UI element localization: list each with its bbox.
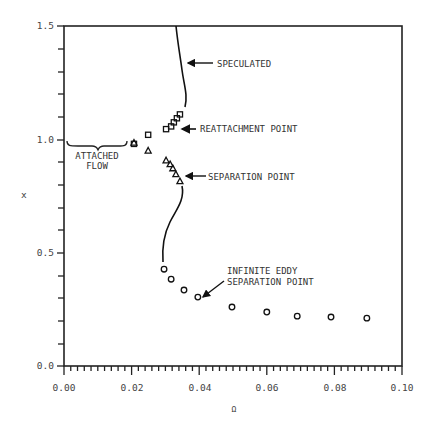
circle-marker xyxy=(364,315,370,321)
x-tick-label: 0.10 xyxy=(391,382,414,393)
triangle-marker xyxy=(145,147,151,153)
triangle-marker xyxy=(177,178,183,184)
circle-marker xyxy=(264,309,270,315)
triangle-marker xyxy=(173,171,179,177)
circle-marker xyxy=(328,314,334,320)
y-axis-label: x xyxy=(21,189,27,200)
circle-marker xyxy=(229,304,235,310)
x-tick-label: 0.08 xyxy=(324,382,347,393)
x-axis-label: Ω xyxy=(232,405,237,414)
separation-curve xyxy=(163,186,183,262)
circle-marker xyxy=(181,287,187,293)
square-marker xyxy=(163,127,168,132)
attached-flow-brace xyxy=(67,141,127,150)
reattachment-label: REATTACHMENT POINT xyxy=(200,124,298,134)
data-markers xyxy=(131,112,370,321)
circle-marker xyxy=(168,276,174,282)
circle-marker xyxy=(294,313,300,319)
separation-label: SEPARATION POINT xyxy=(208,172,295,182)
triangle-marker xyxy=(131,140,137,146)
circle-marker xyxy=(161,266,167,272)
infinite-eddy-arrow xyxy=(203,281,224,297)
infinite-eddy-label-2: SEPARATION POINT xyxy=(227,277,314,287)
y-tick-label: 0.0 xyxy=(37,360,54,371)
y-tick-label: 1.0 xyxy=(37,134,54,145)
attached-label: ATTACHED xyxy=(75,151,118,161)
circle-marker xyxy=(195,294,201,300)
x-tick-label: 0.00 xyxy=(53,382,76,393)
speculated-label: SPECULATED xyxy=(217,59,271,69)
y-axis xyxy=(57,26,64,366)
x-tick-label: 0.04 xyxy=(189,382,212,393)
speculated-curve xyxy=(176,26,186,107)
triangle-marker xyxy=(163,157,169,163)
plot-frame xyxy=(64,26,402,366)
triangle-marker xyxy=(170,165,176,171)
chart: 1.5 1.0 0.5 0.0 x 0.00 0.02 0.04 0.06 0.… xyxy=(0,0,431,429)
square-marker xyxy=(146,132,151,137)
x-axis xyxy=(64,366,402,375)
flow-label: FLOW xyxy=(86,161,108,171)
infinite-eddy-label-1: INFINITE EDDY xyxy=(227,266,298,276)
y-tick-label: 0.5 xyxy=(37,247,54,258)
x-tick-label: 0.06 xyxy=(256,382,279,393)
x-tick-label: 0.02 xyxy=(121,382,144,393)
y-tick-label: 1.5 xyxy=(37,20,54,31)
